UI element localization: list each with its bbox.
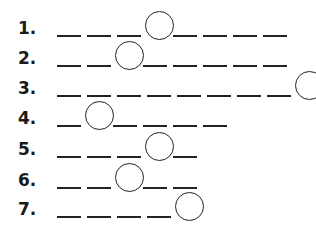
circled-letter-blank[interactable] xyxy=(115,163,144,192)
letter-blank[interactable] xyxy=(203,125,227,127)
row-number: 3. xyxy=(18,78,36,98)
letter-blank[interactable] xyxy=(147,216,171,218)
letter-blank[interactable] xyxy=(203,65,227,67)
circled-letter-blank[interactable] xyxy=(145,132,174,161)
letter-blank[interactable] xyxy=(203,35,227,37)
row-number: 6. xyxy=(18,170,36,190)
letter-blank[interactable] xyxy=(237,95,261,97)
letter-blank[interactable] xyxy=(143,125,167,127)
row-number: 5. xyxy=(18,139,36,159)
letter-blank[interactable] xyxy=(177,95,201,97)
letter-blank[interactable] xyxy=(207,95,231,97)
letter-blank[interactable] xyxy=(267,95,291,97)
letter-blank[interactable] xyxy=(117,95,141,97)
letter-blank[interactable] xyxy=(87,156,111,158)
letter-blank[interactable] xyxy=(57,187,81,189)
letter-blank[interactable] xyxy=(117,35,141,37)
letter-blank[interactable] xyxy=(173,125,197,127)
circled-letter-blank[interactable] xyxy=(175,192,204,221)
letter-blank[interactable] xyxy=(173,187,197,189)
letter-blank[interactable] xyxy=(117,156,141,158)
letter-blank[interactable] xyxy=(87,65,111,67)
letter-blank[interactable] xyxy=(57,125,81,127)
letter-blank[interactable] xyxy=(57,65,81,67)
row-number: 2. xyxy=(18,48,36,68)
letter-blank[interactable] xyxy=(233,65,257,67)
letter-blank[interactable] xyxy=(113,125,137,127)
letter-blank[interactable] xyxy=(57,156,81,158)
letter-blank[interactable] xyxy=(87,35,111,37)
letter-blank[interactable] xyxy=(143,187,167,189)
row-number: 7. xyxy=(18,199,36,219)
letter-blank[interactable] xyxy=(263,65,287,67)
letter-blank[interactable] xyxy=(57,95,81,97)
row-number: 4. xyxy=(18,108,36,128)
circled-letter-blank[interactable] xyxy=(85,101,114,130)
letter-blank[interactable] xyxy=(173,35,197,37)
letter-blank[interactable] xyxy=(143,65,167,67)
letter-blank[interactable] xyxy=(173,65,197,67)
letter-blank[interactable] xyxy=(57,216,81,218)
letter-blank[interactable] xyxy=(87,187,111,189)
letter-blank[interactable] xyxy=(117,216,141,218)
letter-blank[interactable] xyxy=(87,216,111,218)
circled-letter-blank[interactable] xyxy=(115,41,144,70)
letter-blank[interactable] xyxy=(233,35,257,37)
letter-blank[interactable] xyxy=(87,95,111,97)
letter-blank[interactable] xyxy=(57,35,81,37)
letter-blank[interactable] xyxy=(263,35,287,37)
letter-blank[interactable] xyxy=(173,156,197,158)
circled-letter-blank[interactable] xyxy=(295,71,316,100)
letter-blank[interactable] xyxy=(147,95,171,97)
puzzle-row-7: 7. xyxy=(0,0,316,30)
